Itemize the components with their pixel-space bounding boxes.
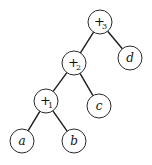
node-label: a bbox=[18, 134, 25, 148]
node-a: a bbox=[10, 129, 34, 153]
edge-plus2-c bbox=[80, 73, 93, 95]
node-d: d bbox=[118, 46, 142, 70]
tree-nodes: +3+2d+1cab bbox=[10, 10, 142, 153]
node-plus3: +3 bbox=[88, 10, 112, 34]
expression-tree: +3+2d+1cab bbox=[0, 0, 152, 165]
node-plus2: +2 bbox=[62, 51, 86, 75]
node-b: b bbox=[62, 129, 86, 153]
edge-plus2-plus1 bbox=[53, 73, 67, 92]
edge-plus1-a bbox=[28, 111, 40, 130]
node-subscript: 2 bbox=[76, 63, 81, 72]
node-label: d bbox=[126, 51, 134, 65]
edge-plus1-b bbox=[53, 111, 67, 131]
node-label: c bbox=[96, 99, 103, 113]
node-label: b bbox=[70, 134, 78, 148]
node-subscript: 3 bbox=[102, 22, 107, 31]
node-plus1: +1 bbox=[34, 89, 58, 113]
node-c: c bbox=[87, 94, 111, 118]
node-subscript: 1 bbox=[48, 101, 53, 110]
edge-plus3-d bbox=[108, 31, 123, 49]
edge-plus3-plus2 bbox=[80, 32, 93, 53]
tree-edges bbox=[28, 31, 122, 131]
